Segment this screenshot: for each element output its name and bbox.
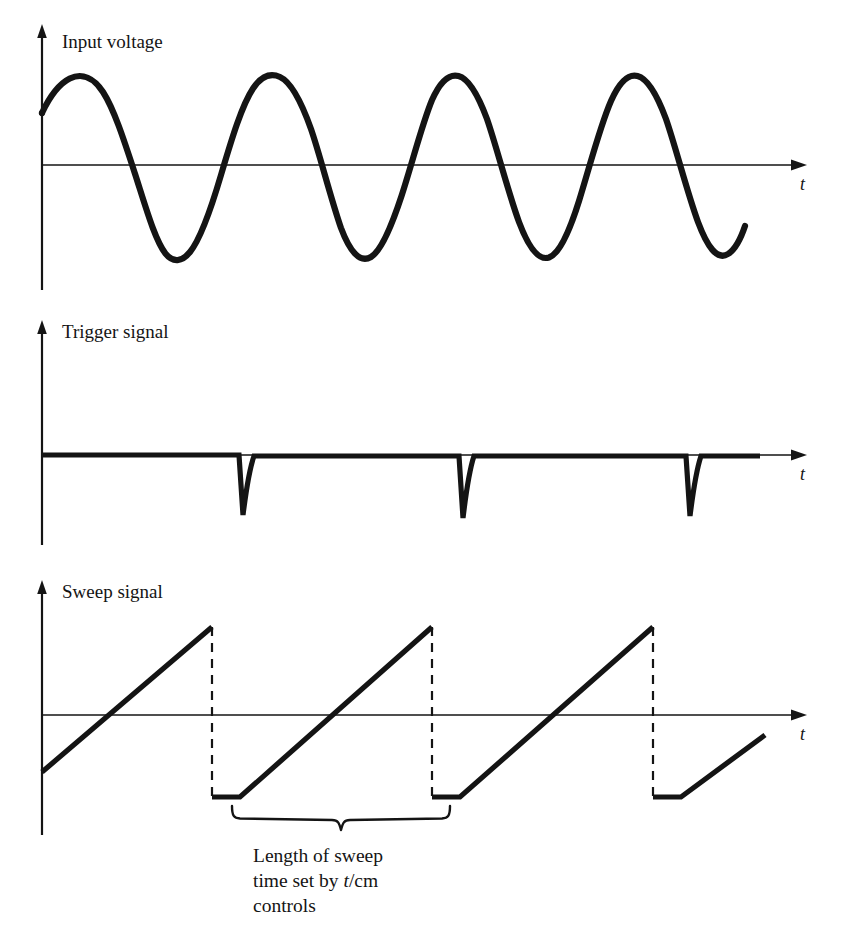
panel-label-trigger-signal: Trigger signal: [62, 321, 168, 342]
trigger-signal-waveform: [42, 455, 760, 518]
panel-trigger-signal: Trigger signal t: [37, 320, 807, 545]
sweep-length-brace: [232, 806, 450, 830]
trigger-signal-time-axis-arrowhead: [791, 449, 807, 460]
sweep-signal-time-axis-arrowhead: [791, 709, 807, 720]
panel-sweep-signal: Sweep signal t Length of sweep time set …: [37, 580, 807, 916]
sweep-signal-axis-variable: t: [800, 724, 806, 744]
panel-input-voltage: Input voltage t: [37, 24, 807, 290]
sweep-caption-line-3: controls: [253, 895, 316, 916]
panel-label-sweep-signal: Sweep signal: [62, 581, 163, 602]
sweep-signal-waveform: [42, 627, 765, 797]
sweep-caption-line-1: Length of sweep: [253, 845, 383, 866]
input-voltage-vertical-axis-arrowhead: [37, 24, 47, 38]
oscilloscope-timing-figure: Input voltage t Trigger signal t Sweep s…: [0, 0, 847, 933]
input-voltage-waveform: [42, 75, 745, 260]
sweep-caption-line-2-suffix: /cm: [349, 870, 378, 891]
trigger-signal-vertical-axis-arrowhead: [37, 320, 47, 334]
panel-label-input-voltage: Input voltage: [62, 31, 163, 52]
trigger-signal-axis-variable: t: [800, 464, 806, 484]
input-voltage-time-axis-arrowhead: [791, 159, 807, 170]
sweep-caption-line-2-prefix: time set by: [253, 870, 343, 891]
sweep-signal-vertical-axis-arrowhead: [37, 580, 47, 594]
input-voltage-axis-variable: t: [800, 174, 806, 194]
sweep-caption-line-2: time set by t/cm: [253, 870, 378, 891]
